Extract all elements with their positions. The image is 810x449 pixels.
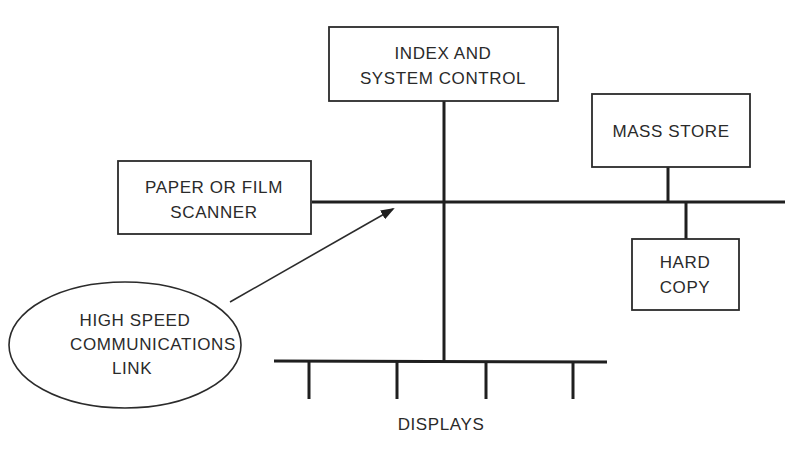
displays-bus-line <box>274 361 607 362</box>
node-label-line: COPY <box>660 278 711 297</box>
displays-label: DISPLAYS <box>398 415 485 434</box>
node-label-line: MASS STORE <box>612 122 729 141</box>
node-label-line: HIGH SPEED <box>80 311 191 330</box>
node-label-line: INDEX AND <box>394 44 491 63</box>
node-label-line: HARD <box>660 253 711 272</box>
node-high-speed-comm-link: HIGH SPEED COMMUNICATIONS LINK <box>9 282 241 408</box>
node-hard-copy: HARD COPY <box>632 239 739 310</box>
node-label-line: SYSTEM CONTROL <box>360 69 526 88</box>
node-paper-film-scanner: PAPER OR FILM SCANNER <box>118 161 311 234</box>
node-label-line: PAPER OR FILM <box>145 178 283 197</box>
node-label-line: COMMUNICATIONS <box>70 335 236 354</box>
node-label-line: LINK <box>112 359 152 378</box>
node-index-system-control: INDEX AND SYSTEM CONTROL <box>329 27 558 101</box>
system-diagram: INDEX AND SYSTEM CONTROL MASS STORE PAPE… <box>0 0 810 449</box>
node-label-line: SCANNER <box>170 203 257 222</box>
node-mass-store: MASS STORE <box>592 94 750 167</box>
